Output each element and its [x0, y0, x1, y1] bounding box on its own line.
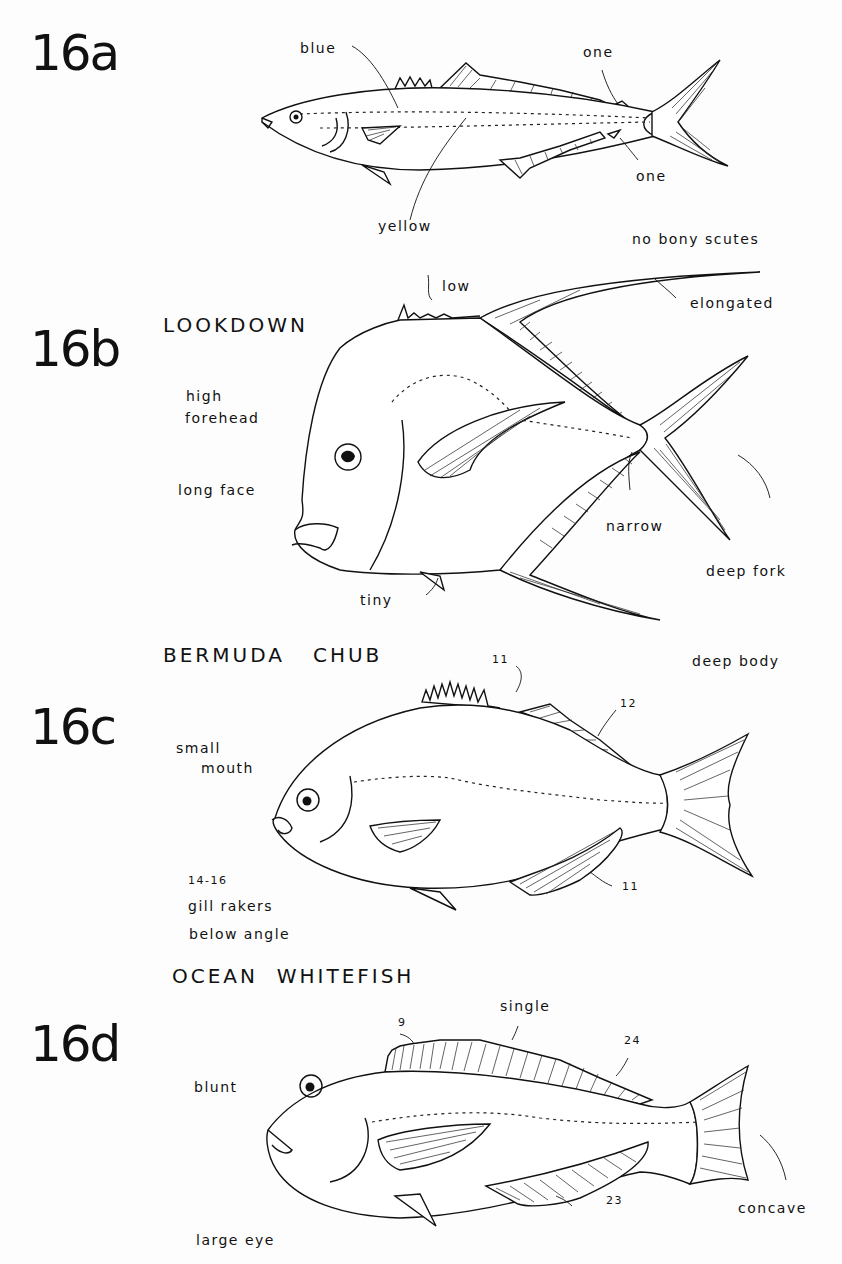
label-blunt: blunt — [194, 1079, 238, 1095]
label-concave: concave — [738, 1200, 807, 1216]
ocean-whitefish-fish-drawing — [0, 0, 842, 1264]
label-anal-rays-23: 23 — [606, 1194, 623, 1207]
label-dorsal-rays-24: 24 — [624, 1034, 641, 1047]
label-dorsal-spines-9: 9 — [398, 1016, 407, 1029]
label-large-eye: large eye — [196, 1232, 275, 1248]
label-single: single — [500, 998, 550, 1014]
